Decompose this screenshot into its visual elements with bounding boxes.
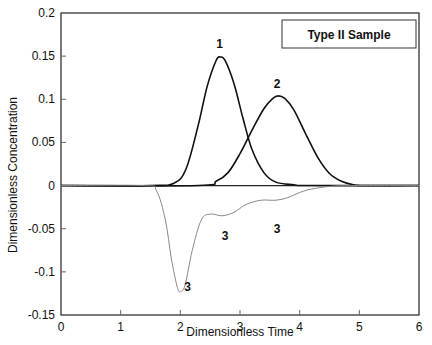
x-tick-label: 0 bbox=[58, 320, 65, 334]
curve-1 bbox=[61, 57, 419, 186]
x-tick-label: 6 bbox=[416, 320, 423, 334]
x-tick-label: 5 bbox=[356, 320, 363, 334]
legend-box: Type II Sample bbox=[282, 20, 416, 48]
y-tick-label: -0.15 bbox=[28, 308, 56, 322]
y-tick-label: 0.1 bbox=[38, 92, 55, 106]
y-tick-label: -0.1 bbox=[34, 265, 55, 279]
axis-ticks: 01234560.20.150.10.050-0.05-0.1-0.15 bbox=[28, 6, 423, 334]
curves bbox=[61, 57, 419, 292]
curve-label-2: 2 bbox=[274, 77, 281, 91]
y-tick-label: -0.05 bbox=[28, 222, 56, 236]
x-tick-label: 1 bbox=[117, 320, 124, 334]
plot-frame bbox=[61, 13, 419, 315]
legend-text: Type II Sample bbox=[307, 28, 390, 42]
chart: 01234560.20.150.10.050-0.05-0.1-0.15 123… bbox=[0, 0, 432, 345]
curve-label-3: 3 bbox=[184, 280, 191, 294]
x-tick-label: 4 bbox=[296, 320, 303, 334]
y-tick-label: 0 bbox=[48, 179, 55, 193]
curve-label-1: 1 bbox=[216, 37, 223, 51]
x-axis-title: Dimensionless Time bbox=[186, 325, 294, 339]
x-tick-label: 2 bbox=[177, 320, 184, 334]
y-axis-title: Dimensionless Concentration bbox=[6, 97, 20, 253]
curve-label-3: 3 bbox=[274, 222, 281, 236]
y-tick-label: 0.2 bbox=[38, 6, 55, 20]
curve-3 bbox=[61, 185, 419, 292]
curve-label-3: 3 bbox=[222, 229, 229, 243]
y-tick-label: 0.15 bbox=[32, 49, 56, 63]
y-tick-label: 0.05 bbox=[32, 135, 56, 149]
